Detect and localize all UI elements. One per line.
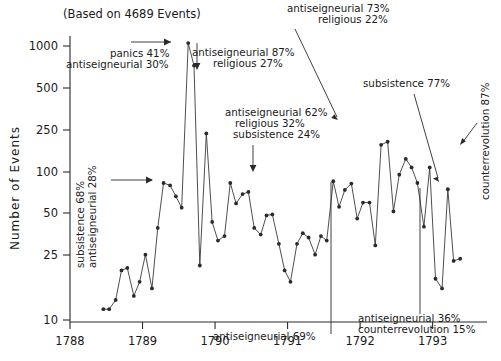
data-point	[107, 307, 111, 311]
data-point	[114, 298, 118, 302]
data-point	[452, 259, 456, 263]
data-point	[270, 212, 274, 216]
data-point	[386, 140, 390, 144]
data-point	[368, 201, 372, 205]
data-point	[216, 239, 220, 243]
data-point	[150, 287, 154, 291]
data-point	[186, 41, 190, 45]
data-point	[458, 257, 462, 261]
data-point	[337, 205, 341, 209]
annotation-line: subsistence 77%	[363, 77, 450, 89]
data-point	[156, 226, 160, 230]
data-point	[223, 234, 227, 238]
data-point	[120, 269, 124, 273]
chart-figure: (Based on 4689 Events) Number of Events …	[0, 0, 501, 361]
x-tick-label: 1789	[128, 334, 157, 348]
data-point	[174, 194, 178, 198]
data-point	[325, 239, 329, 243]
annotation-line: antiseigneurial 69%	[213, 330, 316, 342]
data-point	[331, 179, 335, 183]
data-point	[410, 165, 414, 169]
x-tick-label: 1788	[55, 334, 84, 348]
data-point	[295, 242, 299, 246]
data-point	[228, 181, 232, 185]
data-point	[379, 143, 383, 147]
data-point	[289, 280, 293, 284]
data-point	[168, 184, 172, 188]
data-point	[349, 182, 353, 186]
data-point	[373, 244, 377, 248]
data-point	[422, 225, 426, 229]
y-tick-label: 10	[43, 313, 58, 327]
chart-canvas: (Based on 4689 Events) Number of Events …	[0, 0, 501, 361]
data-point	[440, 287, 444, 291]
y-tick-label: 25	[43, 248, 58, 262]
data-point	[434, 277, 438, 281]
annotation-counterrevolution-87: counterrevolution 87%	[460, 82, 491, 200]
data-point	[241, 192, 245, 196]
data-point	[180, 206, 184, 210]
annotation-antiseigneurial-87: antiseigneurial 87% religious 27%	[192, 43, 295, 70]
annotation-line: religious 22%	[318, 13, 388, 25]
y-tick-label: 250	[36, 123, 58, 137]
data-point	[301, 231, 305, 235]
data-point	[319, 234, 323, 238]
data-point	[446, 187, 450, 191]
annotation-subsistence-68: subsistence 68% antiseigneurial 28%	[74, 165, 153, 268]
data-point	[132, 294, 136, 298]
y-tick-label: 1000	[29, 39, 58, 53]
data-point	[404, 157, 408, 161]
y-axis-tick-labels: 1000 500 250 100 50 25 10	[29, 39, 58, 327]
data-point	[343, 188, 347, 192]
data-point	[144, 253, 148, 257]
data-point	[277, 242, 281, 246]
x-tick-label: 1792	[345, 334, 374, 348]
y-axis-ticks	[63, 46, 70, 320]
data-point	[210, 220, 214, 224]
y-tick-label: 50	[43, 206, 58, 220]
data-point	[259, 233, 263, 237]
data-point	[252, 226, 256, 230]
data-point	[428, 165, 432, 169]
data-point	[138, 280, 142, 284]
data-point	[307, 236, 311, 240]
annotation-line: counterrevolution 15%	[358, 323, 476, 335]
data-point	[265, 214, 269, 218]
y-tick-label: 500	[36, 81, 58, 95]
data-point	[162, 181, 166, 185]
annotation-subsistence-77: subsistence 77%	[363, 77, 450, 182]
x-tick-label: 1793	[418, 334, 447, 348]
y-axis-title: Number of Events	[8, 126, 22, 250]
annotation-line: counterrevolution 87%	[479, 82, 491, 200]
annotation-line: religious 27%	[213, 57, 283, 69]
annotation-line: subsistence 68%	[74, 181, 86, 268]
data-point	[204, 132, 208, 136]
data-point	[234, 201, 238, 205]
data-point	[283, 269, 287, 273]
annotation-line: subsistence 24%	[233, 128, 320, 140]
annotation-antiseigneurial-36: antiseigneurial 36% counterrevolution 15…	[358, 188, 476, 335]
y-tick-label: 100	[36, 165, 58, 179]
data-point	[101, 307, 105, 311]
data-point	[355, 217, 359, 221]
data-point	[313, 253, 317, 257]
data-point	[125, 266, 129, 270]
data-point	[361, 201, 365, 205]
annotation-panics: panics 41% antiseigneurial 30%	[66, 39, 171, 70]
data-point	[397, 173, 401, 177]
annotation-line: antiseigneurial 28%	[86, 165, 98, 268]
annotation-antiseigneurial-73: antiseigneurial 73% religious 22%	[287, 2, 390, 120]
data-point	[198, 264, 202, 268]
annotation-line: antiseigneurial 30%	[66, 58, 169, 70]
annotation-antiseigneurial-62: antiseigneurial 62% religious 32% subsis…	[225, 106, 328, 172]
data-point	[247, 190, 251, 194]
annotation-antiseigneurial-69: antiseigneurial 69%	[213, 182, 331, 342]
data-point	[415, 181, 419, 185]
data-point	[392, 210, 396, 214]
chart-title: (Based on 4689 Events)	[63, 7, 201, 21]
